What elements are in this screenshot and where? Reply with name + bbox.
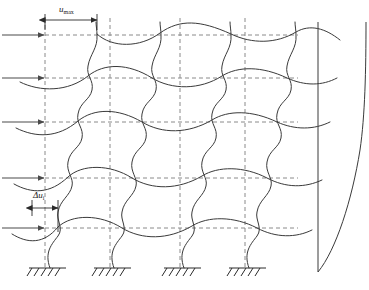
undeformed-grid <box>45 18 298 268</box>
support-hatch <box>227 268 232 276</box>
deflection-profile <box>318 22 366 272</box>
support-hatch <box>162 268 167 276</box>
deformed-column <box>182 22 231 268</box>
deformed-column <box>112 22 161 268</box>
deformed-beam <box>16 111 330 134</box>
support-hatch <box>248 268 253 276</box>
support-hatch <box>48 268 53 276</box>
delta-u-symbol: Δu <box>32 190 43 200</box>
deformed-beam <box>14 167 322 190</box>
support-hatch <box>41 268 46 276</box>
deformed-columns <box>48 22 296 268</box>
support-hatch <box>34 268 39 276</box>
fixed-support <box>92 268 131 276</box>
support-hatch <box>27 268 32 276</box>
figure-canvas: umax Δui <box>0 0 369 290</box>
support-hatch <box>169 268 174 276</box>
deflection-curve <box>318 22 366 272</box>
support-hatch <box>255 268 260 276</box>
support-hatch <box>106 268 111 276</box>
delta-u-subscript: i <box>43 195 45 201</box>
support-hatch <box>176 268 181 276</box>
support-hatch <box>55 268 60 276</box>
support-hatch <box>92 268 97 276</box>
umax-subscript: max <box>64 9 74 15</box>
deformed-column <box>48 22 97 268</box>
fixed-support <box>162 268 201 276</box>
fixed-supports <box>27 268 266 276</box>
deformed-column <box>247 22 296 268</box>
frame-deformation-figure: umax Δui <box>0 0 369 290</box>
support-hatch <box>234 268 239 276</box>
support-hatch <box>241 268 246 276</box>
deformed-beam <box>97 23 340 44</box>
delta-u-label: Δui <box>32 190 45 201</box>
support-hatch <box>99 268 104 276</box>
dimension-umax <box>45 14 97 30</box>
support-hatch <box>183 268 188 276</box>
support-hatch <box>120 268 125 276</box>
support-hatch <box>190 268 195 276</box>
fixed-support <box>27 268 66 276</box>
support-hatch <box>113 268 118 276</box>
fixed-support <box>227 268 266 276</box>
umax-label: umax <box>59 4 74 15</box>
